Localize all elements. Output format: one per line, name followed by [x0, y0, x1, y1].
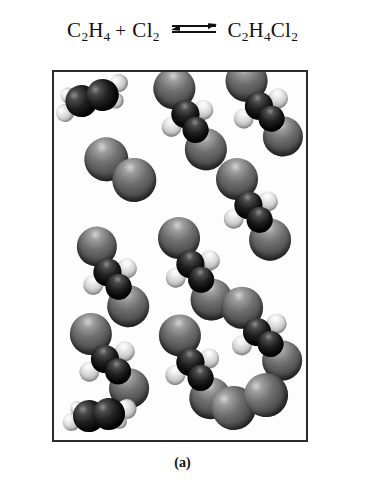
product-dichloroethane: C2H4Cl2 [228, 18, 298, 45]
chemical-equation: C2H4+Cl2 C2H4Cl2 [0, 18, 365, 45]
equilibrium-arrow-icon [172, 20, 216, 38]
product-sub-2: 2 [242, 29, 249, 44]
reactant-ethene-H: H [88, 18, 103, 42]
reactant-chlorine: Cl2 [132, 18, 159, 45]
reactant-ethene-sub-4: 4 [104, 29, 111, 44]
reactant-ethene-C: C [67, 18, 81, 42]
reactant-chlorine-sub-2: 2 [153, 29, 160, 44]
molecule-container [52, 70, 308, 442]
product-C: C [228, 18, 242, 42]
product-sub-2b: 2 [291, 29, 298, 44]
arrow-head-right [208, 21, 217, 29]
reactant-ethene: C2H4 [67, 18, 110, 45]
product-Cl: Cl [271, 18, 291, 42]
product-H: H [249, 18, 264, 42]
reactant-chlorine-Cl: Cl [132, 18, 152, 42]
product-sub-4: 4 [264, 29, 271, 44]
arrow-bar-bottom [172, 31, 216, 33]
figure-caption: (a) [0, 455, 365, 471]
plus-sign: + [110, 20, 132, 42]
